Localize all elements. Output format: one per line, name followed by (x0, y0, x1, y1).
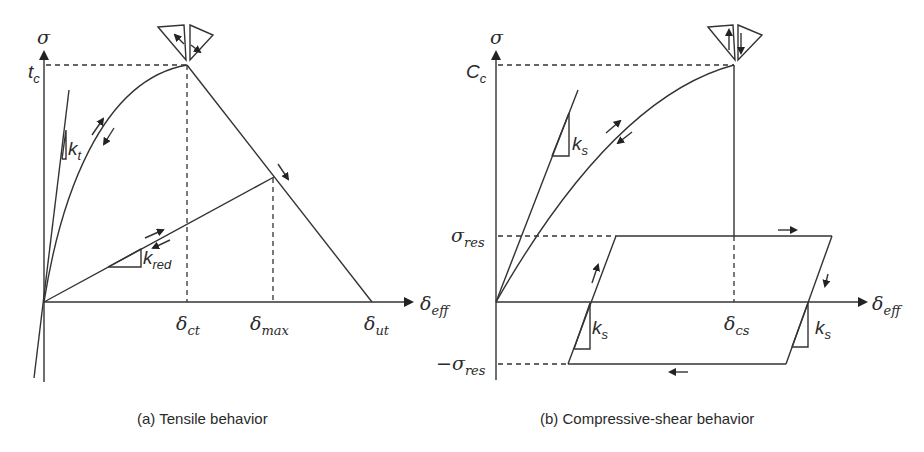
down-arrow-right (825, 274, 828, 286)
neg-sigma-res-label: −σres (436, 352, 486, 378)
sigma-label: σ (490, 26, 504, 48)
loading-arrow (606, 121, 620, 133)
shear-crack-icon (708, 25, 762, 60)
softening-line (187, 65, 372, 302)
ks-slope-triangle-3 (792, 303, 808, 347)
caption-b: (b) Compressive-shear behavior (540, 410, 754, 427)
ks-label-3: ks (815, 317, 832, 342)
caption-a: (a) Tensile behavior (137, 410, 268, 427)
delta-max-label: δmax (250, 312, 290, 338)
kred-label: kred (143, 247, 172, 272)
diagram-canvas: σ tc kt kred δct δmax δut δeff (a) Tensi… (0, 0, 924, 452)
tc-label: tc (28, 61, 40, 86)
kred-line (44, 177, 274, 302)
ks-slope-triangle-2 (574, 303, 590, 349)
kt-label: kt (68, 138, 83, 163)
sigma-label: σ (37, 26, 51, 48)
softening-arrow (278, 164, 288, 179)
delta-eff-label: δeff (872, 292, 903, 318)
ks-label-1: ks (572, 133, 589, 158)
reload-up-arrow (592, 265, 598, 283)
kred-slope-triangle (108, 249, 141, 267)
panel-b-compressive-shear: σ Cc ks ks ks σres −σres δcs δeff (b) Co… (436, 25, 903, 427)
crack-opening-icon (158, 25, 213, 60)
ks-label-2: ks (592, 317, 609, 342)
delta-ut-label: δut (364, 312, 390, 338)
delta-cs-label: δcs (724, 312, 750, 338)
compressive-curve (496, 65, 734, 302)
cc-label: Cc (466, 61, 487, 86)
reload-arrow (145, 230, 163, 238)
unloading-arrow (104, 128, 114, 144)
delta-eff-label: δeff (420, 292, 451, 318)
delta-ct-label: δct (176, 312, 201, 338)
sigma-res-label: σres (451, 224, 485, 250)
kt-line (34, 90, 69, 378)
loading-arrow (92, 119, 103, 135)
ks-slope-triangle-1 (552, 113, 569, 156)
panel-a-tensile: σ tc kt kred δct δmax δut δeff (a) Tensi… (28, 25, 451, 427)
